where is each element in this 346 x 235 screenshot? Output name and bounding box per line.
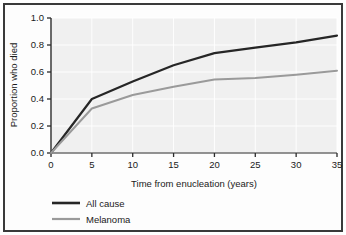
y-tick-label: 0.0 xyxy=(31,147,44,158)
y-axis-label: Proportion who died xyxy=(8,43,19,128)
y-axis-tick-labels: 0.00.20.40.60.81.0 xyxy=(31,12,44,158)
x-tick-label: 5 xyxy=(89,159,94,170)
y-tick-label: 0.8 xyxy=(31,39,44,50)
y-tick-label: 0.2 xyxy=(31,120,44,131)
x-tick-label: 15 xyxy=(168,159,179,170)
survival-curve-chart: 0.00.20.40.60.81.0 05101520253035 Time f… xyxy=(0,0,346,235)
legend-label-all-cause: All cause xyxy=(86,198,125,209)
plot-area-background xyxy=(51,18,337,153)
figure-container: 0.00.20.40.60.81.0 05101520253035 Time f… xyxy=(0,0,346,235)
x-axis-label: Time from enucleation (years) xyxy=(131,178,257,189)
legend-label-melanoma: Melanoma xyxy=(86,214,131,225)
x-tick-label: 25 xyxy=(250,159,261,170)
y-tick-label: 1.0 xyxy=(31,12,44,23)
chart-legend: All cause Melanoma xyxy=(52,198,131,225)
x-tick-label: 0 xyxy=(48,159,53,170)
y-tick-label: 0.6 xyxy=(31,66,44,77)
x-tick-label: 35 xyxy=(332,159,343,170)
y-tick-label: 0.4 xyxy=(31,93,44,104)
x-axis-tick-labels: 05101520253035 xyxy=(48,159,342,170)
x-tick-label: 30 xyxy=(291,159,302,170)
x-tick-label: 10 xyxy=(127,159,138,170)
x-tick-label: 20 xyxy=(209,159,220,170)
